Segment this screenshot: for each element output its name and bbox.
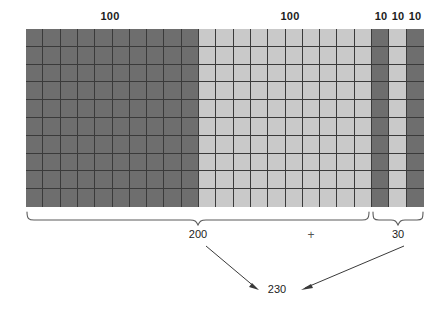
block-cell bbox=[147, 100, 164, 118]
block-cell bbox=[130, 136, 147, 154]
block-cell bbox=[407, 154, 424, 172]
block-cell bbox=[234, 29, 251, 47]
block-cell bbox=[286, 100, 303, 118]
block-cell bbox=[43, 171, 60, 189]
block-cell bbox=[61, 82, 78, 100]
block-cell bbox=[355, 136, 372, 154]
block-cell bbox=[251, 189, 268, 207]
block-cell bbox=[216, 189, 233, 207]
block-cell bbox=[389, 100, 406, 118]
block-cell bbox=[407, 47, 424, 65]
block-cell bbox=[199, 189, 216, 207]
block-cell bbox=[113, 118, 130, 136]
block-cell bbox=[95, 29, 112, 47]
block-cell bbox=[199, 100, 216, 118]
block-cell bbox=[147, 136, 164, 154]
block-cell bbox=[251, 29, 268, 47]
block-cell bbox=[251, 154, 268, 172]
block-cell bbox=[78, 136, 95, 154]
block-cell bbox=[43, 154, 60, 172]
block-cell bbox=[251, 47, 268, 65]
block-cell bbox=[251, 136, 268, 154]
block-cell bbox=[26, 47, 43, 65]
block-cell bbox=[182, 47, 199, 65]
block-cell bbox=[389, 65, 406, 83]
block-cell bbox=[234, 154, 251, 172]
block-cell bbox=[147, 82, 164, 100]
arrow-from-200 bbox=[206, 246, 259, 290]
top-label-hundreds-1: 100 bbox=[80, 10, 140, 22]
block-cell bbox=[182, 189, 199, 207]
block-cell bbox=[95, 100, 112, 118]
block-cell bbox=[389, 136, 406, 154]
block-cell bbox=[355, 100, 372, 118]
block-cell bbox=[43, 118, 60, 136]
block-cell bbox=[389, 82, 406, 100]
block-cell bbox=[234, 65, 251, 83]
block-cell bbox=[61, 47, 78, 65]
block-cell bbox=[337, 154, 354, 172]
block-cell bbox=[130, 29, 147, 47]
block-cell bbox=[130, 65, 147, 83]
block-cell bbox=[251, 171, 268, 189]
block-cell bbox=[320, 82, 337, 100]
block-cell bbox=[95, 118, 112, 136]
block-cell bbox=[268, 65, 285, 83]
block-cell bbox=[130, 47, 147, 65]
block-cell bbox=[216, 171, 233, 189]
block-cell bbox=[199, 29, 216, 47]
block-cell bbox=[78, 118, 95, 136]
block-cell bbox=[268, 171, 285, 189]
block-cell bbox=[164, 118, 181, 136]
block-cell bbox=[199, 171, 216, 189]
block-cell bbox=[113, 136, 130, 154]
block-cell bbox=[61, 154, 78, 172]
block-cell bbox=[164, 136, 181, 154]
block-cell bbox=[303, 82, 320, 100]
block-cell bbox=[78, 65, 95, 83]
block-cell bbox=[199, 154, 216, 172]
block-cell bbox=[234, 47, 251, 65]
block-cell bbox=[320, 118, 337, 136]
block-cell bbox=[337, 100, 354, 118]
arrow-from-30 bbox=[301, 246, 404, 290]
block-cell bbox=[95, 154, 112, 172]
block-cell bbox=[130, 118, 147, 136]
block-cell bbox=[61, 189, 78, 207]
block-cell bbox=[337, 136, 354, 154]
block-cell bbox=[355, 171, 372, 189]
block-cell bbox=[286, 189, 303, 207]
block-cell bbox=[182, 82, 199, 100]
block-cell bbox=[234, 171, 251, 189]
block-cell bbox=[113, 100, 130, 118]
block-cell bbox=[26, 82, 43, 100]
block-cell bbox=[182, 154, 199, 172]
base-ten-block-grid bbox=[26, 29, 424, 207]
block-cell bbox=[43, 100, 60, 118]
block-cell bbox=[216, 118, 233, 136]
block-cell bbox=[43, 29, 60, 47]
sum-total-label: 230 bbox=[257, 283, 297, 295]
block-cell bbox=[61, 171, 78, 189]
block-cell bbox=[251, 118, 268, 136]
block-cell bbox=[43, 136, 60, 154]
block-cell bbox=[389, 47, 406, 65]
block-cell bbox=[268, 154, 285, 172]
block-cell bbox=[164, 171, 181, 189]
block-cell bbox=[113, 154, 130, 172]
block-cell bbox=[113, 47, 130, 65]
block-cell bbox=[130, 154, 147, 172]
block-cell bbox=[61, 65, 78, 83]
block-cell bbox=[43, 82, 60, 100]
block-cell bbox=[303, 29, 320, 47]
block-cell bbox=[61, 118, 78, 136]
block-cell bbox=[372, 65, 389, 83]
block-cell bbox=[268, 29, 285, 47]
block-cell bbox=[303, 65, 320, 83]
block-cell bbox=[337, 65, 354, 83]
top-label-hundreds-2: 100 bbox=[260, 10, 320, 22]
block-cell bbox=[268, 118, 285, 136]
block-cell bbox=[320, 29, 337, 47]
block-cell bbox=[130, 82, 147, 100]
block-cell bbox=[320, 189, 337, 207]
